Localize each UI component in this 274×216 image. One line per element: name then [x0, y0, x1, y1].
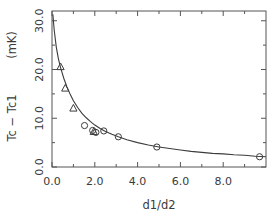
y-tick-label: 0.0: [33, 158, 46, 176]
data-point-circle: [81, 122, 87, 128]
x-tick-label: 6.0: [172, 175, 190, 188]
x-tick-label: 2.0: [86, 175, 104, 188]
tick-marks: [52, 11, 266, 167]
fit-curve-path: [53, 14, 266, 156]
x-axis-title: d1/d2: [142, 198, 175, 212]
fit-curve: [53, 14, 266, 156]
y-axis-title-quantity: Tc − Tc1: [5, 94, 19, 142]
y-axis-title-units: (mK): [5, 31, 19, 59]
y-tick-label: 10.0: [33, 106, 46, 131]
tick-labels: 0.02.04.06.08.00.010.020.030.0: [33, 9, 232, 189]
scatter-plot: 0.02.04.06.08.00.010.020.030.0 d1/d2 Tc …: [0, 0, 274, 216]
x-tick-label: 8.0: [214, 175, 232, 188]
plot-frame: [52, 11, 266, 167]
y-tick-label: 30.0: [33, 9, 46, 34]
x-tick-label: 4.0: [129, 175, 147, 188]
chart-page: 0.02.04.06.08.00.010.020.030.0 d1/d2 Tc …: [0, 0, 274, 216]
data-markers: [57, 63, 263, 160]
x-tick-label: 0.0: [43, 175, 61, 188]
y-tick-label: 20.0: [33, 57, 46, 82]
axes-box: [52, 11, 266, 167]
